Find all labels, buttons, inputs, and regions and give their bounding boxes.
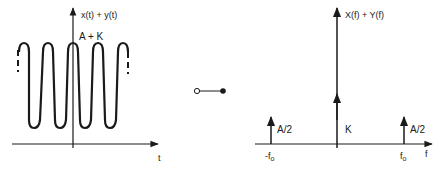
neg-freq-tick-label: -fo: [265, 152, 274, 162]
time-axis-label: t: [158, 154, 161, 163]
open-circle-icon: [194, 88, 199, 93]
diagram-canvas: [0, 0, 447, 173]
transform-pair-connector: [194, 88, 225, 94]
filled-circle-icon: [220, 88, 226, 94]
pos-impulse-label: A/2: [410, 125, 425, 135]
left-plot: [12, 8, 158, 148]
dc-component-label: K: [345, 125, 352, 135]
right-y-axis-label: X(f) + Y(f): [345, 11, 384, 20]
neg-impulse-label: A/2: [277, 125, 292, 135]
pos-freq-tick-label: fo: [400, 152, 406, 162]
frequency-axis-label: f: [425, 150, 428, 159]
peak-label: A + K: [79, 32, 103, 42]
left-y-axis-label: x(t) + y(t): [81, 11, 117, 20]
